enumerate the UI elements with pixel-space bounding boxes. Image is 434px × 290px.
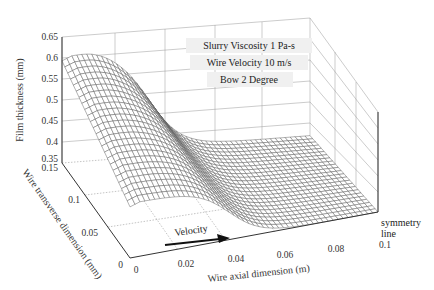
x-axis-label: Wire axial dimension (m) [207, 262, 310, 285]
svg-text:0.5: 0.5 [46, 95, 58, 105]
svg-text:0.06: 0.06 [277, 250, 294, 260]
svg-text:0.02: 0.02 [178, 259, 195, 269]
bow-annotation: Bow 2 Degree [220, 74, 278, 85]
svg-text:0.45: 0.45 [41, 116, 58, 126]
svg-text:0.04: 0.04 [228, 254, 245, 264]
arrow-head-icon [217, 234, 230, 243]
svg-text:0.6: 0.6 [46, 53, 58, 63]
velocity-annotation: Wire Velocity 10 m/s [207, 57, 292, 68]
velocity-arrow: Velocity [165, 222, 230, 245]
svg-text:0: 0 [118, 260, 123, 270]
velocity-arrow-label: Velocity [174, 222, 209, 238]
film-thickness-surface-chart: 0.65 0.6 0.55 0.5 0.45 0.4 0.35 0.15 0.1… [0, 0, 434, 290]
annotations: Slurry Viscosity 1 Pa-s Wire Velocity 10… [186, 38, 312, 87]
y-axis-label: Wire transverse dimension (mm) [20, 167, 105, 282]
svg-text:0.08: 0.08 [328, 244, 345, 254]
z-axis-label: Film thickness (mm) [14, 58, 26, 141]
svg-text:0.1: 0.1 [379, 240, 391, 250]
svg-text:0.1: 0.1 [68, 195, 80, 205]
symmetry-line-label-1: symmetry [381, 217, 421, 228]
symmetry-line-label-2: line [381, 228, 397, 239]
svg-text:0.05: 0.05 [81, 228, 98, 238]
svg-text:0.65: 0.65 [41, 32, 58, 42]
svg-text:0.15: 0.15 [41, 163, 58, 173]
viscosity-annotation: Slurry Viscosity 1 Pa-s [203, 40, 295, 51]
svg-text:0: 0 [134, 265, 139, 275]
z-tick-labels: 0.65 0.6 0.55 0.5 0.45 0.4 0.35 [41, 32, 58, 164]
svg-text:0.4: 0.4 [46, 137, 58, 147]
svg-text:0.55: 0.55 [41, 74, 58, 84]
